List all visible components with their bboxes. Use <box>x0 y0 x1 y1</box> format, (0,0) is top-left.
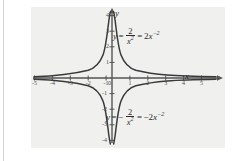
curve-upper-left-branch <box>34 12 110 77</box>
eq-upper-denominator-exponent: 2 <box>131 35 134 41</box>
figure-page: -5 -4 -3 -2 -1 0 1 2 3 4 5 4 3 2 1 -1 -2… <box>0 0 236 161</box>
y-axis-letter-label: y <box>115 8 119 18</box>
y-tick-label-2: 2 <box>101 43 109 49</box>
x-axis-letter-label: x <box>185 71 189 81</box>
x-tick-label-2: 2 <box>143 80 153 86</box>
eq-upper-equals-1: = <box>119 32 124 41</box>
y-tick-label-3: 3 <box>101 28 109 34</box>
x-tick-label--2: -2 <box>83 80 93 86</box>
y-tick-label-4: 4 <box>101 12 109 18</box>
curve-lower-left-branch <box>34 79 110 144</box>
x-tick-label-3: 3 <box>161 80 171 86</box>
eq-lower-power-form: −2x−2 <box>144 113 165 122</box>
eq-upper-power-form: 2x−2 <box>144 32 160 41</box>
eq-lower-power-exponent: −2 <box>157 111 164 117</box>
eq-upper-equals-2: = <box>137 32 142 41</box>
equation-label-upper: y = 2 x2 = 2x−2 <box>113 27 160 45</box>
y-tick-label--4: -4 <box>99 137 107 143</box>
eq-lower-numerator: 2 <box>127 108 133 116</box>
eq-upper-denominator: x2 <box>126 37 135 45</box>
x-tick-label-5: 5 <box>197 80 207 86</box>
eq-upper-y: y <box>113 32 117 41</box>
y-tick-label--1: -1 <box>99 90 107 96</box>
equation-label-lower: y = − 2 x2 = −2x−2 <box>106 108 164 126</box>
x-tick-label--4: -4 <box>47 80 57 86</box>
eq-upper-numerator: 2 <box>127 27 133 35</box>
eq-lower-equals-1: = <box>112 113 117 122</box>
page-left-rule <box>3 0 4 161</box>
eq-lower-y: y <box>106 113 110 122</box>
x-tick-label-1: 1 <box>125 80 135 86</box>
eq-lower-minus: − <box>118 113 123 122</box>
x-tick-label--5: -5 <box>30 80 40 86</box>
eq-lower-denominator: x2 <box>126 118 135 126</box>
x-tick-label--3: -3 <box>65 80 75 86</box>
eq-upper-power-exponent: −2 <box>152 30 159 36</box>
y-tick-label-1: 1 <box>101 59 109 65</box>
eq-upper-fraction: 2 x2 <box>126 27 135 45</box>
x-tick-label-0: 0 <box>105 80 115 86</box>
x-axis-arrow-icon <box>217 75 223 81</box>
eq-lower-equals-2: = <box>137 113 142 122</box>
eq-lower-denominator-exponent: 2 <box>130 116 133 122</box>
eq-lower-fraction: 2 x2 <box>126 108 135 126</box>
